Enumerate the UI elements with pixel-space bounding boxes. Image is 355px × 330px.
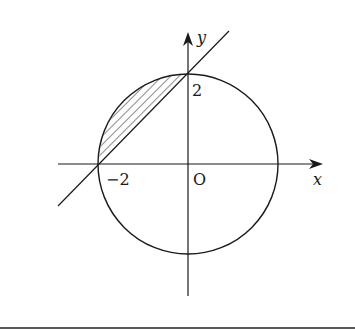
bottom-rule bbox=[0, 327, 355, 329]
y-axis-label: y bbox=[196, 28, 207, 47]
x-axis-label: x bbox=[313, 170, 322, 189]
coordinate-diagram: y x O −2 2 bbox=[0, 0, 355, 330]
origin-label: O bbox=[193, 170, 206, 189]
tick-label-y-2: 2 bbox=[192, 81, 202, 100]
tick-label-x-neg2: −2 bbox=[106, 170, 130, 189]
